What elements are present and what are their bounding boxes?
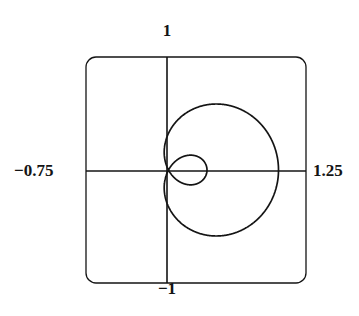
- plot-frame: [86, 57, 306, 283]
- axis-label-bottom: −1: [0, 280, 334, 297]
- axis-label-right: 1.25: [313, 162, 343, 179]
- limacon-curve: [164, 104, 278, 236]
- axis-label-top: 1: [0, 22, 334, 39]
- polar-plot-figure: 1 −1 −0.75 1.25: [0, 0, 359, 316]
- axis-label-left: −0.75: [14, 162, 53, 179]
- plot-canvas: [0, 0, 359, 316]
